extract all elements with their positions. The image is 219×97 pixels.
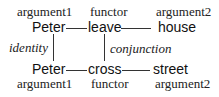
edge-cross-street [122,70,150,71]
bottom-role-argument1: argument1 [17,77,72,90]
bottom-role-argument2: argument2 [155,77,210,90]
bottom-word-street: street [153,62,188,76]
bottom-role-functor: functor [91,77,129,90]
top-word-peter: Peter [32,20,65,34]
relation-conjunction-label: conjunction [110,42,171,55]
top-word-house: house [158,20,196,34]
top-role-argument2: argument2 [156,5,211,18]
top-word-leave: leave [88,20,121,34]
relation-identity-label: identity [9,41,48,54]
edge-leave-house [121,28,151,29]
top-role-argument1: argument1 [17,5,72,18]
bottom-word-cross: cross [88,62,121,76]
edge-conjunction [104,34,105,61]
bottom-word-peter: Peter [32,62,65,76]
edge-peter-cross [66,70,87,71]
top-role-functor: functor [90,5,128,18]
edge-identity [53,34,54,61]
edge-peter-leave [66,28,87,29]
